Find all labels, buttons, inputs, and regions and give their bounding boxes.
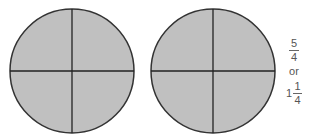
improper-denominator: 4 — [289, 52, 299, 63]
or-text: or — [281, 66, 307, 77]
circle-whole-2 — [151, 9, 275, 133]
fraction-circles-diagram — [0, 0, 309, 138]
fraction-label: 5 4 or 1 1 4 — [281, 38, 307, 106]
improper-fraction: 5 4 — [289, 38, 299, 63]
improper-numerator: 5 — [289, 38, 299, 49]
circle-whole-1 — [10, 9, 134, 133]
mixed-number: 1 1 4 — [281, 81, 307, 106]
mixed-numerator: 1 — [293, 81, 302, 92]
mixed-whole: 1 — [286, 88, 292, 99]
mixed-fraction: 1 4 — [293, 81, 302, 106]
mixed-denominator: 4 — [293, 95, 302, 106]
